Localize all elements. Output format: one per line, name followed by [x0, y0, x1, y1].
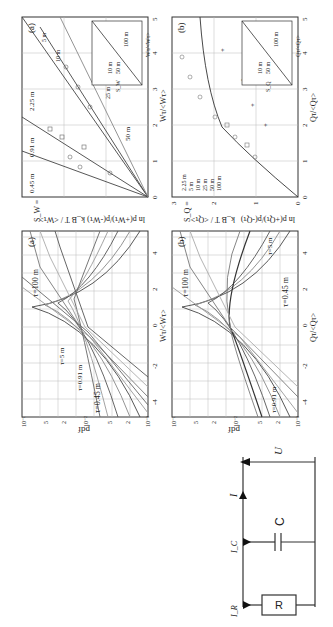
- current-IR-label: I_R: [230, 605, 239, 618]
- pdf-a-tag: (a): [26, 237, 36, 247]
- svg-text:-4: -4: [151, 399, 159, 405]
- pdf-b-annotation-100: τ=100 m: [181, 268, 190, 297]
- svg-text:5: 5: [107, 421, 113, 424]
- svg-text:100 m: 100 m: [273, 32, 279, 48]
- svg-text:4: 4: [301, 251, 309, 255]
- S-a-annotation-5: 5 m: [41, 33, 47, 43]
- pdf-b-annotation-5: τ=5 m: [266, 237, 274, 255]
- svg-text:10⁻¹: 10⁻¹: [171, 416, 177, 427]
- svg-text:100 m: 100 m: [216, 176, 222, 192]
- svg-text:1: 1: [151, 159, 159, 163]
- svg-text:5: 5: [43, 421, 49, 424]
- svg-text:25 m: 25 m: [202, 179, 208, 192]
- arrow-IR-icon: [243, 601, 251, 609]
- svg-text:0: 0: [151, 323, 159, 327]
- formula-SW-frac: k_B T / <Wτ>: [39, 215, 85, 224]
- svg-text:+: +: [262, 123, 270, 127]
- svg-text:0: 0: [294, 201, 302, 205]
- svg-text:10⁻³: 10⁻³: [145, 416, 151, 427]
- S-b-xticks: 0 1 2 3 4 5: [301, 17, 309, 199]
- formula-SQ-ln: ln p(+Qτ)/p(-Qτ): [240, 215, 295, 224]
- svg-text:2: 2: [125, 421, 131, 424]
- svg-text:10⁻²: 10⁻²: [233, 416, 239, 427]
- formula-SW-ln: ln p(+Wτ)/p(-Wτ): [87, 215, 145, 224]
- svg-text:10⁻¹: 10⁻¹: [21, 416, 27, 427]
- S-a-annotation-045: 0.45 m: [28, 173, 36, 193]
- S-b-xlabel: Qτ/<Qτ>: [309, 92, 318, 122]
- svg-text:5: 5: [193, 421, 199, 424]
- pdf-a-yticks: 10⁻³ 2 5 10⁻² 2 5 10⁻¹: [21, 416, 151, 427]
- S-a-annotation-10: 10 m: [55, 50, 61, 63]
- formula-SQ-frac: k_B T / <Qτ>: [190, 215, 235, 224]
- arrow-I-icon: [239, 491, 247, 499]
- svg-text:2.25 m: 2.25 m: [181, 174, 187, 191]
- svg-text:0: 0: [151, 195, 159, 199]
- pdf-a-xticks: -4 -2 0 2 4: [151, 251, 159, 405]
- svg-text:S_Q: S_Q: [265, 81, 271, 92]
- svg-text:2: 2: [151, 123, 159, 127]
- pdf-b-tag: (b): [176, 237, 186, 248]
- S-a-annotation-091: 0.91 m: [28, 137, 36, 157]
- S-a-annotation-25: 25 m: [105, 87, 111, 100]
- pdf-b-yticks: 10⁻³ 2 5 10⁻² 2 5 10⁻¹: [171, 416, 301, 427]
- svg-text:1: 1: [252, 201, 260, 205]
- capacitor-label: C: [273, 517, 287, 526]
- circuit-arrows: [239, 458, 251, 609]
- pdf-a-xlabel: Wτ/<Wτ>: [159, 309, 168, 342]
- pdf-b-annotation-045: τ=0.45 m: [281, 276, 290, 307]
- current-IC-label: I_C: [230, 540, 239, 554]
- svg-text:3: 3: [151, 87, 159, 91]
- circuit-diagram: [243, 457, 315, 615]
- arrow-IC-icon: [243, 538, 251, 546]
- svg-text:S_W: S_W: [115, 80, 121, 92]
- S-a-xlabel: Wτ/<Wτ>: [159, 89, 168, 122]
- svg-text:50 m: 50 m: [115, 62, 121, 75]
- figure-stage: R C U I I_C I_R (a) τ=10: [0, 0, 333, 627]
- pdf-b-annotation-091: τ=0.91 m: [270, 386, 278, 413]
- svg-text:4: 4: [151, 251, 159, 255]
- svg-text:5: 5: [301, 17, 309, 21]
- pdf-b-xlabel: Qτ/<Qτ>: [309, 312, 318, 342]
- svg-text:2: 2: [301, 287, 309, 291]
- pdf-a-annotation-045: τ=0.45 m: [93, 382, 102, 413]
- svg-text:2: 2: [211, 421, 217, 424]
- S-panel-b: + + + + (b) 2.25 m 5 m 10 m 25 m 50 m 10…: [170, 17, 318, 205]
- pdf-b-xticks: -4 -2 0 2 4: [301, 251, 309, 405]
- svg-text:+: +: [249, 103, 257, 107]
- svg-text:2: 2: [151, 287, 159, 291]
- S-a-annotation-225: 2.25 m: [28, 91, 36, 111]
- svg-text:5: 5: [151, 17, 159, 21]
- svg-text:50 m: 50 m: [265, 62, 271, 75]
- svg-text:10 m: 10 m: [195, 179, 201, 192]
- pdf-panel-a: (a) τ=100 m τ=5 m τ=0.91 m τ=0.45 m pdf …: [21, 231, 168, 435]
- svg-text:5 m: 5 m: [188, 182, 194, 192]
- svg-text:5: 5: [257, 421, 263, 424]
- S-panel-a: (a) 0.45 m 0.91 m 2.25 m 5 m 10 m 25 m 5…: [22, 17, 168, 199]
- pdf-a-annotation-100: τ=100 m: [31, 268, 40, 297]
- pdf-a-annotation-091: τ=0.91 m: [76, 364, 84, 391]
- formula-SQ-lhs: S_Q =: [183, 201, 192, 222]
- arrow-U-icon: [240, 458, 250, 466]
- svg-text:-4: -4: [301, 399, 309, 405]
- svg-text:2: 2: [275, 421, 281, 424]
- S-a-inset: 10 m 50 m 100 m S_W Wτ/<Wτ>: [92, 21, 151, 92]
- S-b-tag: (b): [176, 23, 186, 34]
- S-a-tag: (a): [26, 23, 36, 33]
- voltage-label: U: [272, 446, 284, 455]
- svg-text:1: 1: [301, 159, 309, 163]
- svg-text:100 m: 100 m: [123, 32, 129, 48]
- pdf-panel-b: (b) τ=100 m τ=5 m τ=0.91 m τ=0.45 m pdf …: [171, 231, 318, 435]
- resistor-label: R: [275, 599, 283, 611]
- svg-text:-2: -2: [301, 363, 309, 369]
- svg-text:50 m: 50 m: [209, 179, 215, 192]
- svg-text:0: 0: [301, 323, 309, 327]
- S-b-inset: 10 m 50 m 100 m S_Q Qτ/<Qτ>: [242, 21, 301, 92]
- svg-text:10 m: 10 m: [107, 62, 113, 75]
- svg-text:4: 4: [301, 51, 309, 55]
- S-a-xticks: 0 1 2 3 4 5: [151, 17, 159, 199]
- svg-text:3: 3: [170, 201, 178, 205]
- svg-text:2: 2: [301, 123, 309, 127]
- svg-text:10⁻³: 10⁻³: [295, 416, 301, 427]
- pdf-a-annotation-5: τ=5 m: [58, 347, 66, 365]
- svg-text:0: 0: [301, 195, 309, 199]
